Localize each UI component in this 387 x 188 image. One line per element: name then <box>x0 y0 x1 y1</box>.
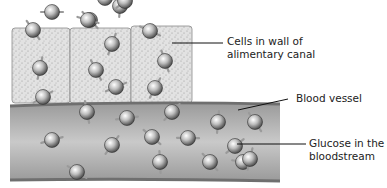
label-glucose-line2: bloodstream <box>309 150 384 163</box>
label-cells-line1: Cells in wall of <box>227 35 315 48</box>
label-cells: Cells in wall of alimentary canal <box>227 35 315 61</box>
label-cells-line2: alimentary canal <box>227 48 315 61</box>
label-glucose-line1: Glucose in the <box>309 137 384 150</box>
label-glucose: Glucose in the bloodstream <box>309 137 384 163</box>
glucose-molecule <box>41 5 63 20</box>
label-blood-vessel: Blood vessel <box>296 92 362 105</box>
glucose-molecule <box>164 104 179 120</box>
glucose-molecule <box>203 154 218 170</box>
glucose-molecule <box>116 0 133 9</box>
